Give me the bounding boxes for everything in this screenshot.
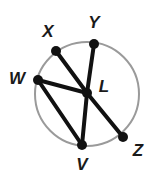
segment-V-L: [82, 93, 87, 145]
segment-L-Z: [87, 93, 123, 137]
labels-group: X Y W L V Z: [9, 13, 144, 174]
point-label-X: X: [41, 22, 55, 41]
point-marker-W: [33, 75, 43, 85]
point-marker-Y: [89, 39, 99, 49]
point-marker-X: [51, 46, 61, 56]
point-label-Z: Z: [132, 141, 144, 160]
point-marker-Z: [118, 132, 128, 142]
point-label-V: V: [76, 155, 89, 174]
geometry-canvas: X Y W L V Z: [0, 0, 158, 180]
circle-geometry-diagram: X Y W L V Z: [0, 0, 158, 180]
point-label-W: W: [9, 69, 27, 88]
point-marker-L: [82, 88, 92, 98]
segment-Y-L: [87, 44, 94, 93]
point-label-Y: Y: [88, 13, 101, 32]
point-marker-V: [77, 140, 87, 150]
segments-group: [38, 44, 123, 145]
point-label-L: L: [99, 77, 109, 96]
